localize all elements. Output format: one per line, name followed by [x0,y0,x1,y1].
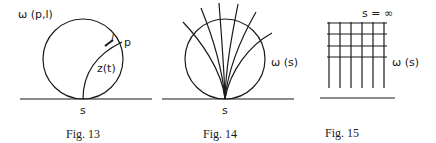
label-s-infinity: s = ∞ [362,7,393,20]
caption-fig-15: Fig. 15 [325,126,359,140]
label-omega-s: ω (s) [392,56,419,69]
label-l: l [111,33,114,44]
label-p: p [124,36,131,49]
label-omega-s: ω (s) [271,56,298,69]
omega-circle [43,19,123,99]
geodesic [225,12,256,99]
caption-fig-13: Fig. 13 [66,127,100,141]
figure-13 [20,19,152,99]
label-s: s [80,104,86,117]
caption-fig-14: Fig. 14 [203,127,237,141]
figure-14 [162,3,294,99]
geodesic [201,8,225,99]
label-omega-p-l: ω (p,l) [18,8,53,21]
figure-15 [320,22,395,98]
label-s: s [222,104,228,117]
diagram-canvas: ω (p,l) p l z(t) s Fig. 13 ω (s) s Fig. … [0,0,436,143]
label-z-t: z(t) [97,62,116,75]
